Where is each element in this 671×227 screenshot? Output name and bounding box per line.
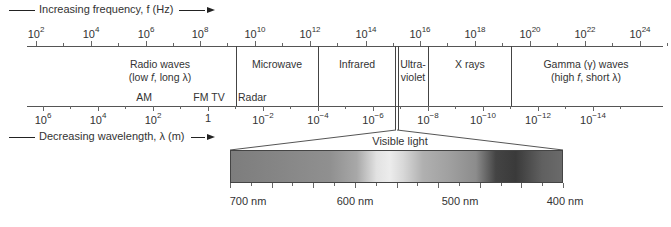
visible-band-tick — [376, 183, 377, 186]
visible-band-tick — [272, 183, 273, 188]
label-500nm: 500 nm — [442, 195, 479, 207]
visible-band-tick — [397, 183, 398, 188]
visible-band-tick — [251, 183, 252, 186]
visible-band-tick — [438, 183, 439, 188]
visible-light-title: Visible light — [372, 135, 427, 147]
visible-band-tick — [563, 183, 564, 188]
label-700nm: 700 nm — [230, 195, 267, 207]
visible-band-tick — [292, 183, 293, 186]
visible-band-tick — [334, 183, 335, 186]
visible-band-tick — [501, 183, 502, 186]
visible-band-tick — [542, 183, 543, 186]
visible-spectrum-band — [230, 150, 563, 183]
label-600nm: 600 nm — [337, 195, 374, 207]
visible-band-tick — [230, 183, 231, 188]
visible-band-tick — [459, 183, 460, 186]
visible-fan-lines — [0, 0, 671, 227]
visible-band-tick — [355, 183, 356, 188]
visible-band-tick — [417, 183, 418, 186]
visible-band-tick — [521, 183, 522, 188]
visible-band-tick — [480, 183, 481, 188]
visible-band-tick — [313, 183, 314, 188]
label-400nm: 400 nm — [547, 195, 584, 207]
